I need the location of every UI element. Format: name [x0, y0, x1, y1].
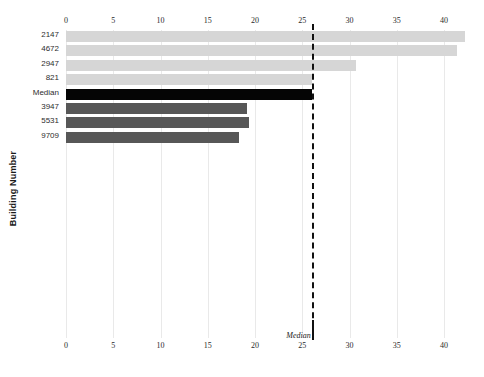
- x-axis-tick-label: 5: [111, 341, 115, 350]
- x-axis-tick-label: 30: [346, 16, 354, 25]
- y-axis-title: Building Number: [0, 0, 26, 377]
- gridline: [397, 30, 398, 338]
- x-axis-tick-label: 20: [251, 16, 259, 25]
- bar: [66, 31, 465, 42]
- x-axis-tick-label: 40: [440, 16, 448, 25]
- y-axis-tick-label: 4672: [0, 44, 59, 53]
- x-axis-tick-label: 15: [204, 341, 212, 350]
- gridline: [444, 30, 445, 338]
- x-axis-tick-label: 20: [251, 341, 259, 350]
- median-annotation-label: Median: [286, 331, 310, 340]
- x-axis-tick-label: 25: [298, 16, 306, 25]
- bar: [66, 89, 312, 100]
- x-axis-tick-label: 35: [393, 341, 401, 350]
- y-axis-tick-label: 9709: [0, 131, 59, 140]
- plot-area: [66, 30, 444, 338]
- bar: [66, 103, 247, 114]
- median-dashed-line-tail: [312, 320, 314, 340]
- bar: [66, 74, 312, 85]
- x-axis-tick-label: 30: [346, 341, 354, 350]
- x-axis-tick-label: 40: [440, 341, 448, 350]
- x-axis-tick-label: 25: [298, 341, 306, 350]
- y-axis-tick-label: 5531: [0, 116, 59, 125]
- y-axis-tick-label: 3947: [0, 102, 59, 111]
- bar: [66, 132, 239, 143]
- y-axis-tick-label: 2947: [0, 59, 59, 68]
- x-axis-tick-label: 0: [64, 341, 68, 350]
- y-axis-tick-label: Median: [0, 88, 59, 97]
- y-axis-tick-label: 2147: [0, 30, 59, 39]
- x-axis-tick-label: 0: [64, 16, 68, 25]
- x-axis-tick-label: 10: [157, 16, 165, 25]
- gridline: [350, 30, 351, 338]
- x-axis-tick-label: 35: [393, 16, 401, 25]
- bar-chart: Building Number 214746722947821Median394…: [0, 0, 484, 377]
- x-axis-tick-label: 5: [111, 16, 115, 25]
- x-axis-tick-label: 10: [157, 341, 165, 350]
- bar: [66, 45, 457, 56]
- median-dashed-line: [312, 24, 314, 338]
- y-axis-tick-label: 821: [0, 73, 59, 82]
- x-axis-tick-label: 15: [204, 16, 212, 25]
- bar: [66, 117, 249, 128]
